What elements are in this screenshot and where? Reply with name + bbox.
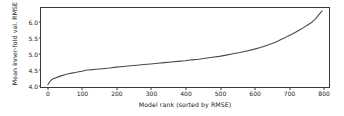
line-series-svg bbox=[41, 8, 329, 87]
x-tick-label: 300 bbox=[146, 90, 157, 97]
y-tick-mark bbox=[39, 54, 42, 55]
y-tick-label: 4.5 bbox=[28, 67, 38, 74]
y-tick-label: 6.0 bbox=[28, 18, 38, 25]
y-tick-label: 4.0 bbox=[28, 83, 38, 90]
x-tick-label: 700 bbox=[284, 90, 295, 97]
rmse-curve bbox=[48, 11, 322, 85]
x-tick-label: 100 bbox=[77, 90, 88, 97]
x-axis-label: Model rank (sorted by RMSE) bbox=[40, 101, 330, 108]
x-tick-label: 600 bbox=[249, 90, 260, 97]
y-axis-label: Mean inner-fold val. RMSE bbox=[11, 0, 18, 109]
y-tick-label: 5.0 bbox=[28, 51, 38, 58]
y-tick-mark bbox=[39, 37, 42, 38]
x-tick-label: 500 bbox=[215, 90, 226, 97]
y-tick-label: 5.5 bbox=[28, 34, 38, 41]
plot-area: 4.04.55.05.56.0 010020030040050060070080… bbox=[40, 7, 330, 88]
x-tick-label: 200 bbox=[111, 90, 122, 97]
x-tick-label: 0 bbox=[46, 90, 50, 97]
chart-figure: 4.04.55.05.56.0 010020030040050060070080… bbox=[0, 0, 344, 116]
x-tick-label: 400 bbox=[180, 90, 191, 97]
x-tick-label: 800 bbox=[318, 90, 329, 97]
y-tick-mark bbox=[39, 21, 42, 22]
y-tick-mark bbox=[39, 86, 42, 87]
y-tick-mark bbox=[39, 70, 42, 71]
